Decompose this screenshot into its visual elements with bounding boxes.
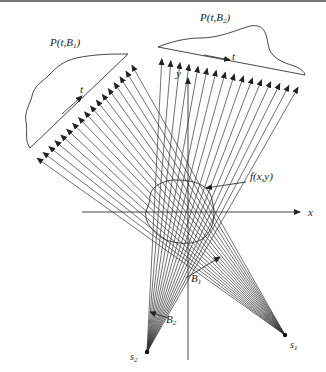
- x-axis-label: x: [307, 206, 313, 218]
- t-label-2: t: [232, 50, 236, 62]
- beam2-label: B2: [166, 313, 177, 327]
- detector-line-1: [30, 54, 128, 148]
- ray: [73, 124, 285, 335]
- projection-label-1: P(t,B1): [49, 36, 80, 50]
- ray: [120, 77, 285, 335]
- t-direction-arrow-2: [204, 55, 230, 60]
- source1-label: s1: [290, 339, 297, 352]
- t-direction-arrow-1: [62, 96, 82, 114]
- ray: [114, 83, 285, 335]
- ray: [85, 112, 285, 335]
- ray: [67, 129, 285, 335]
- source-1-point: [283, 333, 287, 337]
- ray: [61, 135, 285, 335]
- projection-label-2: P(t,B2): [199, 11, 230, 25]
- y-axis-label: y: [175, 67, 181, 79]
- ray: [37, 158, 285, 335]
- source2-label: s2: [130, 351, 138, 364]
- ray: [147, 69, 207, 352]
- object-label: f(x,y): [250, 170, 273, 183]
- ray: [97, 100, 285, 335]
- fan-beam-diagram: P(t,B1) P(t,B2) t t x y f(x,y) B1 B2 s1 …: [0, 0, 326, 372]
- source-2-point: [145, 350, 149, 354]
- t-label-1: t: [80, 83, 84, 95]
- fan-beam-rays-source-2: [147, 59, 298, 352]
